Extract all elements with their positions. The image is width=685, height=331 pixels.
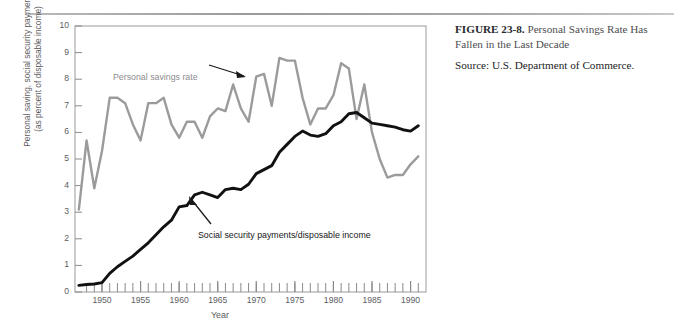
y-tick-label: 4	[51, 180, 69, 190]
x-tick-label: 1965	[198, 295, 238, 305]
annotation-arrow-social	[189, 196, 211, 224]
chart-panel: Personal saving, social security payment…	[0, 14, 440, 331]
plot-frame	[75, 26, 426, 292]
y-tick-label: 2	[51, 233, 69, 243]
line-chart	[0, 14, 440, 331]
x-tick-label: 1980	[313, 295, 353, 305]
annotation-personal-savings-rate: Personal savings rate	[113, 72, 198, 82]
x-tick-label: 1950	[82, 295, 122, 305]
x-tick-label: 1990	[391, 295, 431, 305]
x-tick-label: 1985	[352, 295, 392, 305]
y-tick-label: 0	[51, 286, 69, 296]
x-tick-label: 1975	[275, 295, 315, 305]
x-axis-minor-ticks	[87, 283, 419, 292]
x-tick-label: 1955	[121, 295, 161, 305]
figure-caption: FIGURE 23-8. Personal Savings Rate Has F…	[455, 22, 670, 73]
y-axis-ticks	[75, 26, 82, 292]
y-tick-label: 10	[51, 20, 69, 30]
y-tick-label: 1	[51, 259, 69, 269]
series-line-social-security	[79, 112, 418, 285]
caption-title-block: FIGURE 23-8. Personal Savings Rate Has F…	[455, 22, 670, 51]
x-tick-label: 1960	[159, 295, 199, 305]
annotation-arrow-savings	[209, 65, 246, 78]
y-tick-label: 5	[51, 153, 69, 163]
caption-source: Source: U.S. Department of Commerce.	[455, 58, 670, 73]
figure-container: Personal saving, social security payment…	[0, 0, 685, 331]
y-tick-label: 3	[51, 206, 69, 216]
annotation-social-security: Social security payments/disposable inco…	[198, 230, 371, 240]
x-axis-title: Year	[0, 310, 440, 320]
caption-figure-number: FIGURE 23-8.	[455, 23, 525, 35]
y-tick-label: 6	[51, 126, 69, 136]
y-tick-label: 9	[51, 47, 69, 57]
y-tick-label: 7	[51, 100, 69, 110]
y-tick-label: 8	[51, 73, 69, 83]
x-tick-label: 1970	[236, 295, 276, 305]
